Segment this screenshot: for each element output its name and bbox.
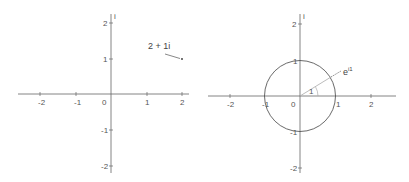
point-label: 2 + 1i (148, 41, 170, 51)
right-x-tick-label: 1 (336, 100, 341, 109)
angle-ray (300, 77, 331, 96)
right-y-tick-label: 2 (292, 20, 297, 29)
left-x-tick-label: -1 (74, 98, 82, 107)
right-y-tick-label: -2 (290, 164, 298, 173)
left-origin-label: 0 (102, 98, 107, 107)
ray-label: ei1 (343, 66, 353, 77)
right-x-tick-label: -1 (262, 100, 270, 109)
angle-arc (316, 87, 319, 96)
right-x-tick-label: 2 (369, 100, 374, 109)
complex-plane-figures: -2 -1 1 2 0 2 1 -1 -2 i 2 + 1i 1 ei1 -2 … (0, 0, 409, 182)
left-complex-plane: -2 -1 1 2 0 2 1 -1 -2 i 2 + 1i (18, 12, 189, 173)
left-x-tick-label: -2 (38, 98, 46, 107)
angle-label: 1 (309, 87, 314, 96)
left-y-tick-label: 2 (103, 19, 108, 28)
left-imag-axis-label: i (114, 12, 116, 21)
left-y-tick-label: 1 (103, 55, 108, 64)
point-leader-line (165, 54, 180, 59)
left-x-tick-label: 1 (145, 98, 150, 107)
point-2-plus-1i (181, 58, 183, 60)
ray-label-leader (331, 71, 341, 77)
right-complex-plane: 1 ei1 -2 -1 1 2 0 2 1 -1 -2 i (208, 12, 396, 173)
left-y-tick-label: -2 (101, 162, 109, 171)
ray-label-sup: i1 (348, 66, 353, 72)
left-x-tick-label: 2 (180, 98, 185, 107)
left-y-tick-label: -1 (101, 126, 109, 135)
right-origin-label: 0 (291, 100, 296, 109)
right-x-tick-label: -2 (227, 100, 235, 109)
right-imag-axis-label: i (303, 12, 305, 21)
right-y-tick-label: 1 (293, 57, 298, 66)
right-y-tick-label: -1 (290, 128, 298, 137)
